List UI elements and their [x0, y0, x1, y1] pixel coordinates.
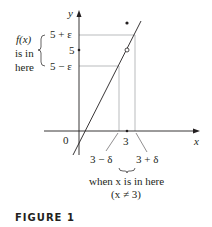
filled-point [125, 21, 128, 24]
y-axis-arrow-icon [77, 10, 82, 17]
annotation-when-x: when x is in here [89, 175, 164, 187]
left-brace-icon [38, 35, 45, 66]
y-tick-upper-label: 5 + ε [50, 28, 72, 40]
bottom-brace-icon [119, 168, 135, 173]
y-tick-lower-label: 5 − ε [50, 60, 72, 72]
y-tick-center-label: 5 [69, 44, 75, 56]
figure-caption: FIGURE 1 [15, 212, 75, 223]
annotation-is-in: is in [15, 47, 34, 59]
x-tick-center-label: 3 [123, 135, 129, 147]
annotation-fx: f(x) [16, 33, 32, 46]
origin-label: 0 [63, 134, 69, 146]
y-axis-label: y [67, 7, 73, 19]
hole-point [125, 48, 129, 52]
annotation-x-neq-3: (x ≠ 3) [111, 188, 141, 201]
pointer-right-delta [136, 133, 147, 152]
limit-diagram: y x 0 5 + ε 5 5 − ε f(x) is in here 3 3 … [0, 0, 212, 227]
function-line [73, 21, 141, 155]
annotation-here: here [15, 61, 34, 73]
x-tick-right-label: 3 + δ [136, 153, 158, 165]
x-tick-3-dot [126, 130, 129, 133]
x-axis-label: x [193, 135, 199, 147]
x-axis-arrow-icon [193, 129, 200, 134]
y-tick-5-dot [78, 49, 81, 52]
pointer-left-delta [106, 133, 118, 151]
x-tick-left-label: 3 − δ [90, 153, 112, 165]
